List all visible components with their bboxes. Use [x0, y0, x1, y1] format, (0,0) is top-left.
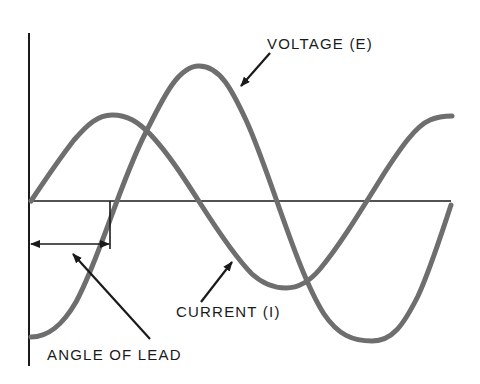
voltage-label: VOLTAGE (E)	[267, 36, 373, 51]
angle-of-lead-label: ANGLE OF LEAD	[47, 347, 182, 362]
voltage-curve	[31, 66, 451, 341]
angle-of-lead-marker	[31, 201, 110, 249]
current-label: CURRENT (I)	[176, 304, 281, 319]
current-leader-arrow	[201, 262, 232, 302]
angle-leader-arrow	[73, 254, 150, 339]
phase-diagram	[0, 0, 480, 384]
voltage-leader-arrow	[241, 53, 270, 86]
